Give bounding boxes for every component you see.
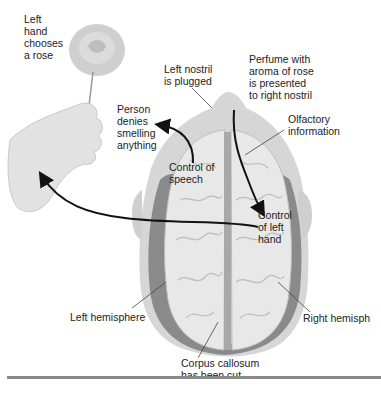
label-olfactory-information: Olfactory information bbox=[288, 113, 340, 137]
label-right-hemisphere: Right hemisph bbox=[303, 312, 370, 324]
label-left-nostril: Left nostril is plugged bbox=[164, 63, 212, 87]
label-person-denies: Person denies smelling anything bbox=[117, 103, 157, 151]
label-control-of-speech: Control of speech bbox=[169, 161, 215, 185]
label-left-hemisphere: Left hemisphere bbox=[70, 311, 145, 323]
label-left-hand: Left hand chooses a rose bbox=[24, 13, 63, 61]
leader-left-nostril bbox=[192, 88, 212, 108]
label-control-of-left-hand: Control of left hand bbox=[258, 209, 292, 245]
corpus-callosum-line bbox=[224, 132, 231, 350]
bottom-divider bbox=[7, 376, 381, 379]
hand-illustration bbox=[8, 103, 102, 211]
label-perfume: Perfume with aroma of rose is presented … bbox=[249, 53, 314, 101]
